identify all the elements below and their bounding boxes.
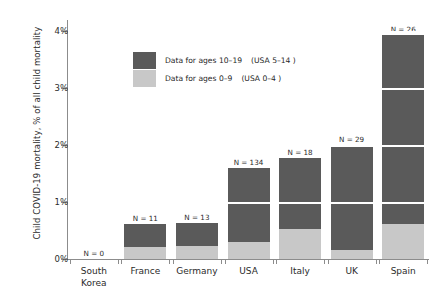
legend-label: Data for ages 10–19 xyxy=(165,56,242,65)
bar-n-label: N = 13 xyxy=(184,213,209,224)
x-tick-mark xyxy=(70,259,71,264)
x-tick-mark xyxy=(328,259,329,264)
bar-segment-ages-0-9 xyxy=(331,250,373,259)
x-tick-mark xyxy=(121,259,122,264)
x-tick-mark xyxy=(225,259,226,264)
gridline xyxy=(68,202,429,204)
bar-n-label: N = 18 xyxy=(288,148,313,159)
bar-segment-ages-10-19 xyxy=(124,224,166,247)
bar-south-korea[interactable]: N = 0 xyxy=(73,259,115,260)
gridline xyxy=(68,145,429,147)
bar-segment-ages-10-19 xyxy=(382,35,424,223)
legend-swatch xyxy=(133,70,156,87)
x-axis-label-spain: Spain xyxy=(365,266,441,278)
x-tick-mark xyxy=(379,259,380,264)
legend-note: (USA 0–4 ) xyxy=(241,74,281,83)
x-tick-mark xyxy=(427,259,428,264)
bar-n-label: N = 0 xyxy=(84,248,105,259)
legend-label: Data for ages 0–9 xyxy=(165,74,232,83)
bar-n-label: N = 29 xyxy=(339,135,364,146)
y-tick-label: 1% xyxy=(42,197,68,207)
legend-swatch xyxy=(133,52,156,69)
bar-usa[interactable]: N = 134 xyxy=(228,168,270,259)
bar-segment-ages-10-19 xyxy=(279,158,321,229)
bar-segment-ages-0-9 xyxy=(176,246,218,259)
bar-spain[interactable]: N = 26 xyxy=(382,35,424,259)
legend: Data for ages 10–19(USA 5–14 )Data for a… xyxy=(133,51,296,87)
bar-segment-ages-0-9 xyxy=(124,247,166,259)
bar-france[interactable]: N = 11 xyxy=(124,224,166,259)
x-tick-mark xyxy=(276,259,277,264)
bar-segment-ages-10-19 xyxy=(176,223,218,246)
y-tick-label: 0% xyxy=(42,254,68,264)
gridline xyxy=(68,31,429,33)
y-tick-label: 3% xyxy=(42,83,68,93)
legend-item[interactable]: Data for ages 10–19(USA 5–14 ) xyxy=(133,51,296,69)
chart-container: Child COVID-19 mortality, % of all child… xyxy=(0,0,446,296)
x-tick-mark xyxy=(273,259,274,264)
x-tick-mark xyxy=(173,259,174,264)
bar-segment-ages-0-9 xyxy=(382,224,424,259)
bar-germany[interactable]: N = 13 xyxy=(176,223,218,259)
x-tick-mark xyxy=(324,259,325,264)
bar-n-label: N = 26 xyxy=(391,25,416,36)
bar-n-label: N = 134 xyxy=(234,157,264,168)
legend-item[interactable]: Data for ages 0–9(USA 0–4 ) xyxy=(133,69,296,87)
gridline xyxy=(68,88,429,90)
x-tick-mark xyxy=(376,259,377,264)
y-tick-label: 2% xyxy=(42,140,68,150)
x-tick-mark xyxy=(118,259,119,264)
legend-note: (USA 5–14 ) xyxy=(251,56,296,65)
x-tick-mark xyxy=(169,259,170,264)
bar-segment-ages-0-9 xyxy=(228,242,270,259)
y-axis-title: Child COVID-19 mortality, % of all child… xyxy=(32,8,42,258)
y-tick-label: 4% xyxy=(42,26,68,36)
bar-n-label: N = 11 xyxy=(133,213,158,224)
bar-segment-ages-0-9 xyxy=(279,229,321,259)
bar-segment-ages-10-19 xyxy=(228,168,270,242)
bar-segment-ages-10-19 xyxy=(331,145,373,250)
x-tick-mark xyxy=(221,259,222,264)
bar-italy[interactable]: N = 18 xyxy=(279,158,321,259)
